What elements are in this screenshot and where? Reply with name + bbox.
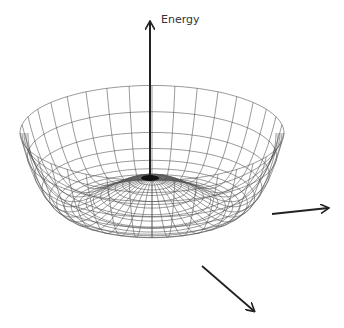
peak-point	[141, 175, 159, 181]
energy-axis-label: Energy	[161, 13, 200, 26]
y-axis-arrow	[202, 266, 254, 311]
diagram-canvas: Energy	[0, 0, 344, 328]
x-axis-arrow	[272, 208, 328, 214]
mexican-hat-surface	[0, 0, 344, 328]
surface-mesh	[20, 86, 284, 238]
